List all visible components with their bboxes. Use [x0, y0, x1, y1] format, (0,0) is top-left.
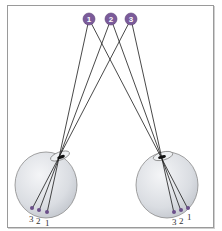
binocular-diagram: 3 2 1 3 2 1 1 2 3 — [0, 0, 222, 231]
left-retina-label-2: 2 — [36, 216, 41, 226]
left-retina-label-1: 1 — [45, 218, 50, 228]
svg-text:1: 1 — [87, 15, 92, 24]
right-retina-label-3: 3 — [172, 217, 177, 227]
left-eye — [15, 149, 77, 218]
object-point-1: 1 — [83, 13, 95, 25]
object-point-3: 3 — [125, 13, 137, 25]
svg-text:3: 3 — [129, 15, 134, 24]
right-retina-label-2: 2 — [179, 216, 184, 226]
left-retina-label-3: 3 — [29, 214, 34, 224]
object-point-2: 2 — [105, 13, 117, 25]
svg-text:2: 2 — [109, 15, 114, 24]
right-retina-label-1: 1 — [187, 212, 192, 222]
